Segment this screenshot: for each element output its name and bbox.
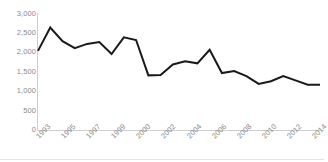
x-tick-label: 2006 [210,121,228,139]
x-tick-label: 2014 [310,121,328,139]
x-tick-label: 1995 [59,121,77,139]
bottom-divider [0,159,324,160]
x-tick-label: 2002 [159,121,177,139]
x-tick-label: 2012 [285,121,303,139]
x-tick-label: 2004 [185,121,203,139]
x-tick-label: 1993 [34,121,52,139]
x-tick-label: 2000 [134,121,152,139]
x-tick-label: 2010 [260,121,278,139]
x-tick-label: 1997 [84,121,102,139]
x-tick-label: 1999 [109,121,127,139]
x-tick-label: 2008 [235,121,253,139]
